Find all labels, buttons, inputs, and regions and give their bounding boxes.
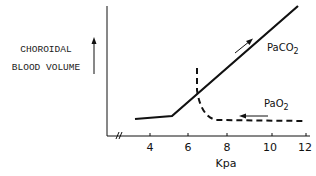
y-label-up-arrow-icon (92, 37, 97, 74)
x-tick-label: 8 (224, 141, 231, 154)
series-pao2-label: PaO2 (264, 98, 289, 112)
x-tick-label: 4 (147, 141, 154, 154)
y-axis-label-line1: CHOROIDAL (20, 44, 72, 55)
x-tick-label: 6 (185, 141, 192, 154)
x-axis-label: Kpa (216, 157, 237, 170)
pao2-direction-arrow-icon (239, 114, 268, 119)
series-paco2-label: PaCO2 (267, 42, 299, 56)
series-pao2-line (197, 68, 305, 121)
x-tick-label: 12 (298, 141, 312, 154)
x-tick-label: 10 (263, 141, 277, 154)
chart: 4 6 8 10 12 Kpa CHOROIDAL BLOOD VOLUME P… (0, 0, 316, 176)
y-axis-label-line2: BLOOD VOLUME (12, 62, 81, 73)
paco2-direction-arrow-icon (235, 39, 253, 54)
